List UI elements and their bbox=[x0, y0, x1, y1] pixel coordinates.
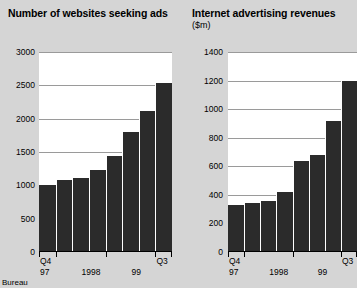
y-axis-tick-label: 0 bbox=[218, 248, 223, 256]
bar bbox=[89, 170, 106, 252]
y-axis-tick-label: 1500 bbox=[16, 148, 35, 156]
y-axis-tick-label: 1000 bbox=[16, 181, 35, 189]
y-axis-tick-label: 1200 bbox=[204, 77, 223, 85]
y-axis-tick-label: 0 bbox=[30, 248, 35, 256]
bar bbox=[122, 132, 139, 252]
bar bbox=[244, 203, 260, 252]
x-axis-group-label: Q3 bbox=[156, 256, 167, 266]
y-axis-labels-right: 0200400600800100012001400 bbox=[180, 52, 223, 252]
chart-title-right: Internet advertising revenues bbox=[192, 7, 336, 19]
x-axis-group-sublabel: 1998 bbox=[82, 267, 101, 277]
y-axis-tick-label: 800 bbox=[209, 134, 223, 142]
y-axis-tick-label: 2000 bbox=[16, 115, 35, 123]
bar bbox=[309, 155, 325, 252]
y-axis-tick-label: 600 bbox=[209, 162, 223, 170]
x-axis-group-label: Q4 bbox=[229, 256, 240, 266]
bar bbox=[155, 83, 172, 252]
y-axis-tick-label: 200 bbox=[209, 219, 223, 227]
x-axis-labels-right: Q497199899Q3 bbox=[228, 256, 357, 282]
bar bbox=[72, 178, 89, 252]
bar bbox=[325, 121, 341, 252]
bar bbox=[106, 156, 123, 252]
y-axis-labels-left: 050010001500200025003000 bbox=[0, 52, 35, 252]
x-axis-group-sublabel: 97 bbox=[229, 267, 238, 277]
y-axis-tick-label: 1000 bbox=[204, 105, 223, 113]
x-axis-group-sublabel: 97 bbox=[40, 267, 49, 277]
y-axis-tick-label: 1400 bbox=[204, 48, 223, 56]
x-axis-group-sublabel: 99 bbox=[131, 267, 140, 277]
plot-area-left bbox=[39, 52, 172, 252]
dual-bar-chart-figure: Number of websites seeking ads 050010001… bbox=[0, 0, 357, 288]
gridline bbox=[228, 81, 357, 82]
bar bbox=[228, 205, 244, 252]
y-axis-tick-label: 3000 bbox=[16, 48, 35, 56]
chart-panel-websites: Number of websites seeking ads 050010001… bbox=[0, 0, 180, 288]
x-axis-group-label: Q4 bbox=[40, 256, 51, 266]
bar bbox=[56, 180, 73, 252]
y-axis-tick-label: 2500 bbox=[16, 81, 35, 89]
gridline bbox=[228, 52, 357, 53]
x-axis-group-sublabel: 99 bbox=[318, 267, 327, 277]
y-axis-tick-label: 500 bbox=[21, 215, 35, 223]
x-axis-group-sublabel: 1998 bbox=[269, 267, 288, 277]
bar bbox=[293, 161, 309, 252]
bar bbox=[341, 81, 357, 252]
chart-subtitle-right: ($m) bbox=[192, 20, 211, 30]
bar bbox=[39, 185, 56, 252]
gridline bbox=[39, 52, 172, 53]
gridline bbox=[228, 109, 357, 110]
x-axis-group-label: Q3 bbox=[342, 256, 353, 266]
bar bbox=[260, 201, 276, 252]
gridline bbox=[39, 85, 172, 86]
x-axis-labels-left: Q497199899Q3 bbox=[39, 256, 179, 282]
chart-title-left: Number of websites seeking ads bbox=[8, 7, 168, 19]
bar bbox=[139, 111, 156, 252]
source-note: Bureau bbox=[2, 278, 28, 287]
y-axis-tick-label: 400 bbox=[209, 191, 223, 199]
plot-area-right bbox=[228, 52, 357, 252]
bar bbox=[276, 192, 292, 252]
